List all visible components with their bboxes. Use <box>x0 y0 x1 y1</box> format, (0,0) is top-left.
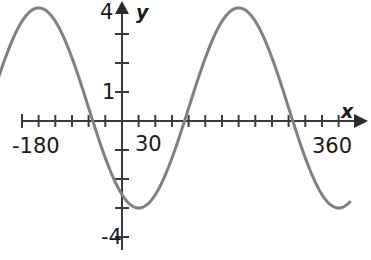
y-axis-label-bottom: -4 <box>101 227 122 248</box>
coordinate-plane <box>0 0 371 260</box>
x-axis-arrow-icon <box>354 114 368 128</box>
x-axis-label-right: 360 <box>312 136 352 157</box>
x-axis-label-middle: 30 <box>135 134 162 155</box>
y-axis-arrow-icon <box>115 1 129 14</box>
graph-figure: -180 30 360 4 1 -4 x y <box>0 0 371 260</box>
y-axis-label-one: 1 <box>102 82 115 103</box>
y-axis-name: y <box>136 3 148 22</box>
y-axis-label-top: 4 <box>100 2 113 23</box>
cosine-curve <box>0 8 350 208</box>
x-axis-label-left: -180 <box>12 136 60 157</box>
x-axis-name: x <box>341 102 353 121</box>
